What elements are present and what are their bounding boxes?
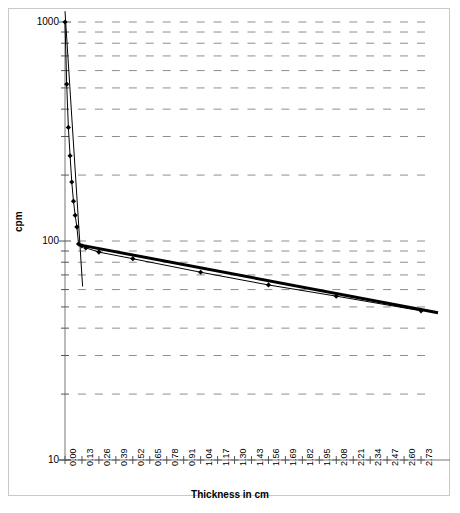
x-tick-label: 0.39 bbox=[120, 448, 129, 466]
x-tick-label: 0.65 bbox=[154, 448, 163, 466]
x-tick-label: 0.78 bbox=[171, 448, 180, 466]
x-tick-label: 1.17 bbox=[222, 448, 231, 466]
x-tick-label: 0.00 bbox=[69, 448, 78, 466]
x-tick-label: 1.30 bbox=[239, 448, 248, 466]
axis-layer bbox=[65, 22, 450, 460]
x-tick-label: 1.82 bbox=[306, 448, 315, 466]
grid-layer bbox=[78, 22, 425, 460]
data-polyline-layer bbox=[65, 22, 421, 311]
x-tick-label: 0.26 bbox=[103, 448, 112, 466]
x-tick-label: 2.34 bbox=[374, 448, 383, 466]
x-tick-label: 1.56 bbox=[272, 448, 281, 466]
x-tick-label: 1.43 bbox=[256, 448, 265, 466]
x-tick-label: 1.95 bbox=[323, 448, 332, 466]
x-tick-label: 1.04 bbox=[205, 448, 214, 466]
x-tick-label: 0.13 bbox=[86, 448, 95, 466]
x-tick-label: 0.52 bbox=[137, 448, 146, 466]
y-tick-label: 100 bbox=[21, 236, 59, 246]
x-tick-label: 2.73 bbox=[425, 448, 434, 466]
x-tick-label: 2.60 bbox=[408, 448, 417, 466]
x-axis-title: Thickness in cm bbox=[0, 489, 460, 500]
y-tick-label: 10 bbox=[21, 455, 59, 465]
x-tick-label: 2.21 bbox=[357, 448, 366, 466]
x-tick-label: 2.08 bbox=[340, 448, 349, 466]
chart-canvas bbox=[0, 0, 460, 513]
data-marker-layer bbox=[62, 19, 423, 313]
figure-container: 100010010 0.000.130.260.390.520.650.780.… bbox=[0, 0, 460, 513]
y-axis-title: cpm bbox=[14, 211, 24, 232]
x-tick-label: 2.47 bbox=[391, 448, 400, 466]
x-tick-label: 1.69 bbox=[289, 448, 298, 466]
y-tick-label: 1000 bbox=[21, 17, 59, 27]
x-tick-label: 0.91 bbox=[188, 448, 197, 466]
fit-line-layer bbox=[65, 11, 438, 313]
